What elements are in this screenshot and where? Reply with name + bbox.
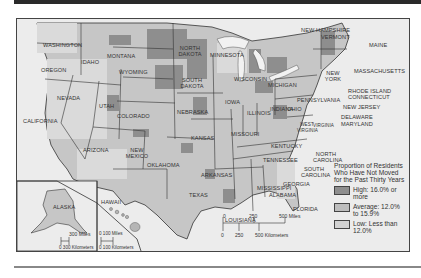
legend-title: Proportion of Residents Who Have Not Mov… xyxy=(334,162,406,183)
scale-km-500: 500 Kilometers xyxy=(255,232,288,238)
alaska-scale-miles: 300 Miles xyxy=(69,231,90,237)
scale-miles-0: 0 xyxy=(223,213,226,219)
state-label-wisconsin: WISCONSIN xyxy=(234,76,267,82)
state-label-florida: FLORIDA xyxy=(293,206,318,212)
state-label-montana: MONTANA xyxy=(107,53,135,59)
state-label-new-jersey: NEW JERSEY xyxy=(343,104,380,110)
top-rule xyxy=(14,0,421,4)
state-label-arizona: ARIZONA xyxy=(83,147,109,153)
scale-km-0: 0 xyxy=(221,232,224,238)
state-label-new-york: NEW YORK xyxy=(323,70,343,82)
state-label-alabama: ALABAMA xyxy=(269,192,296,198)
legend-item-low: Low: Less than 12.0% xyxy=(334,220,406,234)
state-label-north-dakota: NORTH DAKOTA xyxy=(177,45,203,57)
state-label-texas: TEXAS xyxy=(189,192,208,198)
state-label-alaska: ALASKA xyxy=(53,204,75,210)
legend-label-average: Average: 12.0% to 15.9% xyxy=(353,203,406,217)
state-label-connecticut: CONNECTICUT xyxy=(348,94,390,100)
legend-swatch-low xyxy=(334,220,350,229)
state-label-maryland: MARYLAND xyxy=(341,121,373,127)
state-label-oklahoma: OKLAHOMA xyxy=(147,162,180,168)
hawaii-scale-km: 0 100 Kilometers xyxy=(99,245,133,250)
state-label-pennsylvania: PENNSYLVANIA xyxy=(297,97,340,103)
state-label-wyoming: WYOMING xyxy=(119,69,148,75)
state-label-colorado: COLORADO xyxy=(117,113,150,119)
state-label-nebraska: NEBRASKA xyxy=(177,109,208,115)
legend-swatch-average xyxy=(334,203,350,212)
legend-item-average: Average: 12.0% to 15.9% xyxy=(334,203,406,217)
state-label-oregon: OREGON xyxy=(41,67,66,73)
state-label-minnesota: MINNESOTA xyxy=(210,52,244,58)
state-label-south-carolina: SOUTH CAROLINA xyxy=(301,166,327,178)
legend-label-low: Low: Less than 12.0% xyxy=(353,220,406,234)
scale-miles-250: 250 xyxy=(249,213,257,219)
state-label-washington: WASHINGTON xyxy=(43,42,82,48)
scale-miles-500: 500 Miles xyxy=(279,213,300,219)
legend-swatch-high xyxy=(334,186,350,195)
state-label-arkansas: ARKANSAS xyxy=(201,172,232,178)
state-label-tennessee: TENNESSEE xyxy=(263,157,298,163)
hawaii-scale-miles: 0 100 Miles xyxy=(99,231,123,236)
state-label-new-mexico: NEW MEXICO xyxy=(125,147,149,159)
state-label-illinois: ILLINOIS xyxy=(247,110,271,116)
legend-label-high: High: 16.0% or more xyxy=(353,186,406,200)
state-label-georgia: GEORGIA xyxy=(283,181,310,187)
state-label-nevada: NEVADA xyxy=(57,95,80,101)
state-label-massachusetts: MASSACHUSETTS xyxy=(354,68,405,74)
state-label-maine: MAINE xyxy=(369,42,387,48)
state-label-west-virginia: WEST VIRGINIA xyxy=(297,122,317,134)
state-label-kansas: KANSAS xyxy=(191,135,214,141)
state-label-california: CALIFORNIA xyxy=(23,118,58,124)
state-label-hawaii: HAWAII xyxy=(101,199,121,205)
state-label-utah: UTAH xyxy=(99,103,114,109)
state-label-michigan: MICHIGAN xyxy=(268,82,297,88)
state-label-missouri: MISSOURI xyxy=(231,131,259,137)
scale-km-250: 250 xyxy=(235,232,243,238)
map-legend: Proportion of Residents Who Have Not Mov… xyxy=(334,162,406,237)
state-label-idaho: IDAHO xyxy=(81,59,99,65)
state-label-new-hampshire: NEW HAMPSHIRE xyxy=(301,27,350,33)
state-label-kentucky: KENTUCKY xyxy=(271,143,302,149)
alaska-scale-km: 0 300 Kilometers xyxy=(59,245,93,250)
legend-item-high: High: 16.0% or more xyxy=(334,186,406,200)
state-label-ohio: OHIO xyxy=(287,106,302,112)
bottom-rule xyxy=(14,266,421,268)
state-label-iowa: IOWA xyxy=(225,99,240,105)
state-label-vermont: VERMONT xyxy=(321,34,350,40)
state-label-south-dakota: SOUTH DAKOTA xyxy=(179,77,205,89)
state-label-delaware: DELAWARE xyxy=(341,114,373,120)
